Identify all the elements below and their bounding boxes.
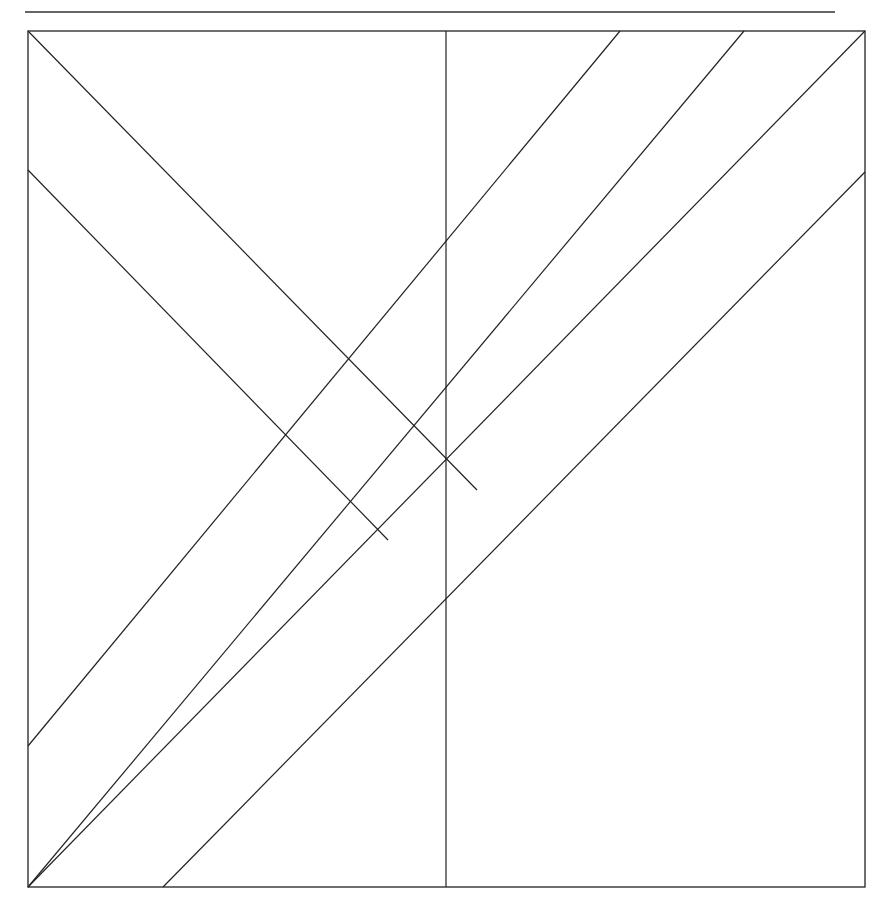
line-ascending-4 xyxy=(163,172,865,887)
line-diag-descending-long xyxy=(28,31,477,490)
line-diag-descending-short xyxy=(28,170,388,540)
geometric-line-diagram xyxy=(0,0,895,912)
line-ascending-2 xyxy=(28,31,744,887)
diagram-lines xyxy=(28,31,865,887)
line-ascending-1 xyxy=(28,31,620,746)
